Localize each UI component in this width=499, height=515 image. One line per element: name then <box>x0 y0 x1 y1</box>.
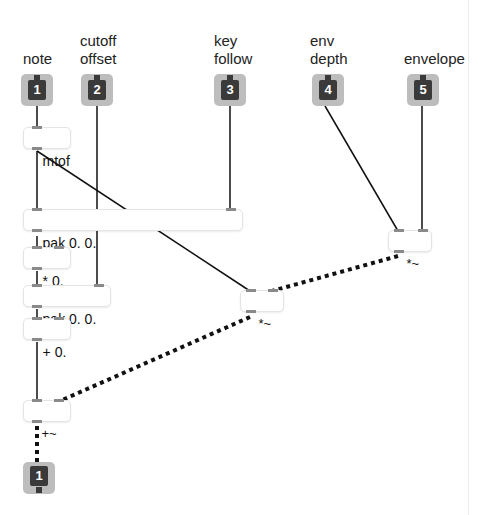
object-pak-top[interactable]: pak 0. 0. <box>23 209 243 231</box>
inlet-number: 1 <box>28 80 46 100</box>
patcher-canvas[interactable]: note cutoff offset key follow env depth … <box>0 0 499 515</box>
object-outlet-port[interactable] <box>32 147 42 150</box>
inlet-3[interactable]: 3 <box>214 74 246 106</box>
inlet-5[interactable]: 5 <box>407 74 439 106</box>
object-inlet-port[interactable] <box>32 208 42 211</box>
object-inlet-port[interactable] <box>32 246 42 249</box>
object-inlet-port[interactable] <box>32 284 42 287</box>
inlet-number: 4 <box>319 80 337 100</box>
signal-cord-sigmul-right-to-mid <box>272 256 398 291</box>
inlet-2[interactable]: 2 <box>81 74 113 106</box>
object-pak-bottom[interactable]: pak 0. 0. <box>23 285 111 307</box>
inlet-number: 2 <box>88 80 106 100</box>
object-text: *~ <box>258 316 271 331</box>
object-signal-multiply-right[interactable]: *~ <box>388 230 432 252</box>
object-multiply[interactable]: * 0. <box>23 247 71 269</box>
object-text: mtof <box>43 153 70 169</box>
object-text: + 0. <box>43 344 67 360</box>
outlet-number: 1 <box>30 466 48 486</box>
object-mtof[interactable]: mtof <box>23 127 71 149</box>
object-inlet-port[interactable] <box>226 208 236 211</box>
inlet-number: 3 <box>221 80 239 100</box>
object-inlet-port[interactable] <box>32 399 42 402</box>
object-inlet-port[interactable] <box>32 126 42 129</box>
object-outlet-port[interactable] <box>394 250 404 253</box>
object-inlet-port[interactable] <box>54 246 64 249</box>
object-inlet-port[interactable] <box>246 289 256 292</box>
object-inlet-port[interactable] <box>32 317 42 320</box>
object-outlet-port[interactable] <box>32 229 42 232</box>
inlet-number: 5 <box>414 80 432 100</box>
object-signal-multiply-mid[interactable]: *~ <box>240 290 284 312</box>
object-inlet-port[interactable] <box>394 229 404 232</box>
object-outlet-port[interactable] <box>32 338 42 341</box>
object-text: *~ <box>406 256 419 271</box>
object-outlet-port[interactable] <box>246 310 256 313</box>
inlet-4[interactable]: 4 <box>312 74 344 106</box>
object-outlet-port[interactable] <box>32 420 42 423</box>
object-add[interactable]: + 0. <box>23 318 71 340</box>
object-text: +~ <box>41 426 56 441</box>
inlet-1[interactable]: 1 <box>21 74 53 106</box>
object-inlet-port[interactable] <box>418 229 428 232</box>
outlet-nub <box>36 487 42 493</box>
cord-inlet4-sigmul <box>325 106 398 231</box>
object-inlet-port[interactable] <box>54 399 64 402</box>
object-inlet-port[interactable] <box>94 284 104 287</box>
object-inlet-port[interactable] <box>54 317 64 320</box>
object-signal-add[interactable]: +~ <box>23 400 71 422</box>
object-outlet-port[interactable] <box>32 305 42 308</box>
object-outlet-port[interactable] <box>32 267 42 270</box>
outlet-1[interactable]: 1 <box>23 462 55 494</box>
object-inlet-port[interactable] <box>268 289 278 292</box>
